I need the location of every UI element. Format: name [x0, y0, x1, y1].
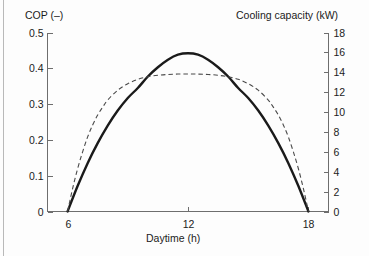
y-tick-label-left: 0	[4, 206, 44, 218]
y-tick-label-right: 10	[334, 106, 364, 118]
y-tick-label-left: 0.4	[4, 62, 44, 74]
y-tick-label-right: 6	[334, 146, 364, 158]
series-line-1	[68, 53, 309, 211]
y-tick-label-right: 0	[334, 206, 364, 218]
y-tick-label-left: 0.5	[4, 27, 44, 39]
y-tick-label-left: 0.1	[4, 170, 44, 182]
axis-frame	[48, 33, 329, 212]
x-tick-label: 6	[49, 218, 89, 230]
y-tick-label-right: 2	[334, 186, 364, 198]
x-tick-label: 12	[169, 218, 209, 230]
chart-figure: COP (–) Cooling capacity (kW) Daytime (h…	[0, 0, 369, 256]
y-tick-label-right: 18	[334, 27, 364, 39]
series-line-2	[68, 74, 309, 212]
y-tick-label-left: 0.3	[4, 98, 44, 110]
y-tick-label-left: 0.2	[4, 134, 44, 146]
y-tick-label-right: 4	[334, 166, 364, 178]
y-tick-label-right: 14	[334, 66, 364, 78]
data-series-layer	[68, 53, 309, 211]
y-tick-label-right: 8	[334, 126, 364, 138]
x-tick-label: 18	[289, 218, 329, 230]
y-tick-label-right: 16	[334, 46, 364, 58]
tick-marks	[48, 34, 329, 213]
y-tick-label-right: 12	[334, 86, 364, 98]
